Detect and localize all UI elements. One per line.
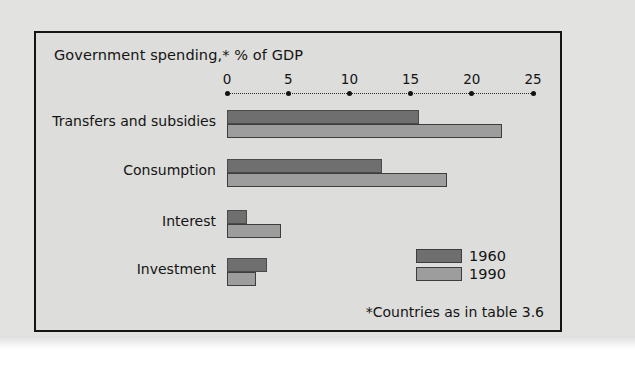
x-axis-dotted-rule: [227, 93, 533, 94]
x-axis-tick-dot: [347, 91, 352, 96]
bar-1960: [227, 159, 382, 173]
bar-group: Interest: [36, 210, 560, 240]
x-axis-tick-label: 5: [284, 71, 293, 87]
x-axis-tick-dot: [286, 91, 291, 96]
bar-1960: [227, 110, 419, 124]
bar-group: Transfers and subsidies: [36, 110, 560, 140]
category-label: Interest: [162, 213, 216, 229]
x-axis-line: [227, 91, 533, 97]
x-axis-tick-label: 0: [223, 71, 232, 87]
legend-label: 1960: [469, 248, 506, 264]
bar-1990: [227, 224, 281, 238]
bar-group: Consumption: [36, 159, 560, 189]
bar-1990: [227, 173, 447, 187]
x-axis-tick-dot: [408, 91, 413, 96]
chart-legend: 19601990: [416, 247, 528, 283]
legend-item: 1990: [416, 265, 528, 282]
legend-label: 1990: [469, 266, 506, 282]
category-label: Transfers and subsidies: [52, 113, 216, 129]
x-axis-tick-label: 15: [402, 71, 419, 87]
category-label: Investment: [137, 261, 216, 277]
x-axis-tick-dot: [225, 91, 230, 96]
x-axis-tick-dot: [531, 91, 536, 96]
plot-area: 0510152025 Transfers and subsidiesConsum…: [36, 33, 560, 330]
bar-1990: [227, 272, 256, 286]
page-bottom-fade: [0, 336, 635, 350]
x-axis-tick-labels: 0510152025: [227, 71, 533, 89]
bar-1990: [227, 124, 502, 138]
x-axis-tick-label: 25: [524, 71, 541, 87]
bar-1960: [227, 258, 267, 272]
bar-1960: [227, 210, 247, 224]
legend-swatch: [416, 267, 462, 281]
chart-figure: Government spending,* % of GDP 051015202…: [34, 31, 562, 332]
x-axis-tick-label: 10: [341, 71, 358, 87]
x-axis-tick-label: 20: [463, 71, 480, 87]
category-label: Consumption: [123, 162, 216, 178]
legend-item: 1960: [416, 247, 528, 264]
x-axis-tick-dot: [469, 91, 474, 96]
legend-swatch: [416, 249, 462, 263]
chart-footnote: *Countries as in table 3.6: [366, 304, 544, 320]
